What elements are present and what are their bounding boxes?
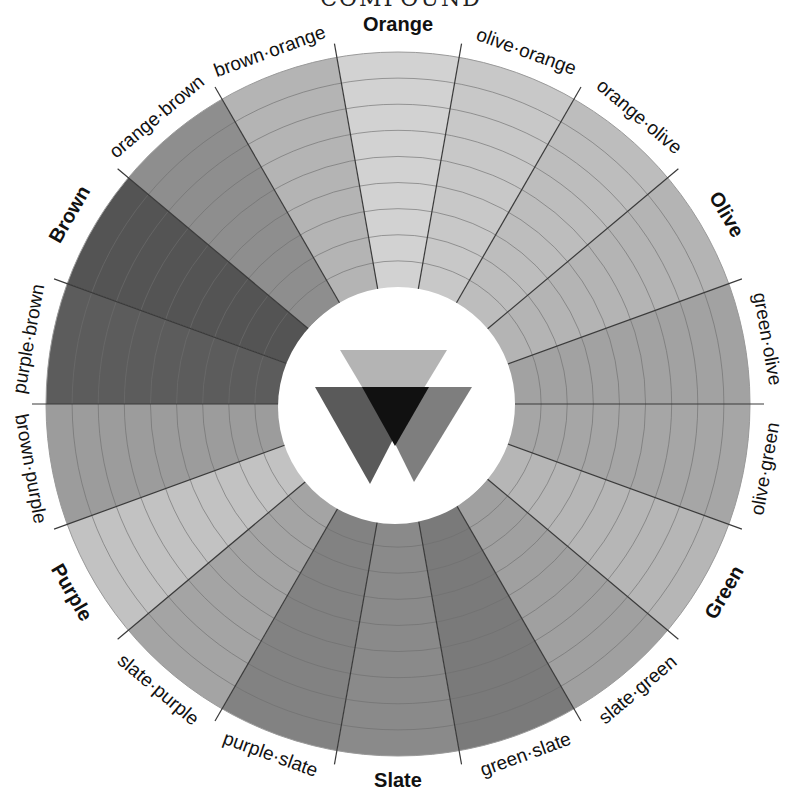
segment-label: Slate (374, 769, 422, 791)
segment-label: Olive (705, 187, 749, 240)
segment-label: purple·brown (8, 282, 48, 395)
segment-label: brown·purple (11, 412, 51, 525)
segment-label: olive·green (746, 421, 783, 517)
segment-label: Orange (363, 13, 433, 35)
segment-label: green·olive (749, 291, 786, 387)
segment-label: Brown (44, 182, 94, 247)
color-wheel: Orangeolive·orangeorange·oliveOlivegreen… (0, 0, 802, 803)
